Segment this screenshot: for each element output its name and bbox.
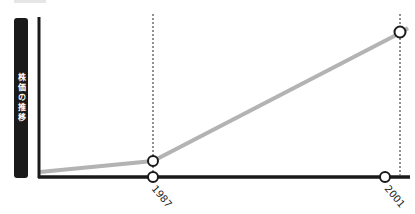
point-1987 (148, 156, 158, 166)
point-2001 (395, 27, 406, 38)
price-line (40, 28, 408, 172)
axis-mark-2001 (380, 172, 390, 182)
chart-canvas (0, 0, 415, 214)
axis-mark-1987 (148, 172, 158, 182)
